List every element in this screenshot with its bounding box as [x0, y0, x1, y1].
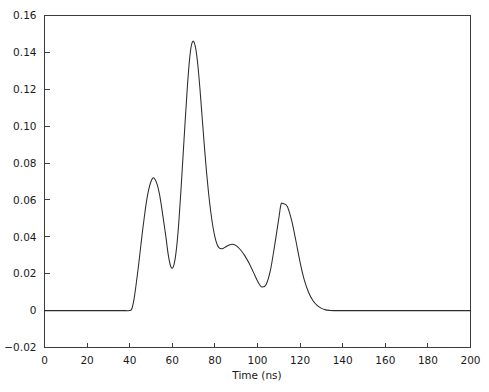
y-tick-label: 0.16	[13, 9, 37, 21]
y-tick-label: 0.02	[13, 267, 36, 279]
y-tick-label: 0	[30, 304, 37, 316]
y-tick-label: 0.04	[13, 231, 37, 243]
x-tick-label: 100	[247, 354, 267, 366]
x-tick-label: 140	[333, 354, 353, 366]
y-tick-label: 0.08	[13, 157, 36, 169]
y-tick-label: 0.06	[13, 194, 37, 206]
chart-figure: −0.0200.020.040.060.080.100.120.140.16 0…	[0, 0, 489, 392]
x-tick-label: 180	[418, 354, 438, 366]
x-tick-label: 200	[460, 354, 480, 366]
x-tick-label: 80	[208, 354, 221, 366]
y-tick-label: 0.14	[13, 46, 37, 58]
y-axis-ticks: −0.0200.020.040.060.080.100.120.140.16	[4, 9, 49, 353]
x-tick-label: 120	[290, 354, 310, 366]
y-tick-label: 0.12	[13, 83, 36, 95]
signal-curve	[45, 41, 471, 311]
x-tick-label: 60	[166, 354, 179, 366]
chart-svg: −0.0200.020.040.060.080.100.120.140.16 0…	[0, 0, 489, 392]
y-tick-label: −0.02	[4, 341, 36, 353]
x-tick-label: 20	[80, 354, 93, 366]
x-tick-label: 160	[375, 354, 395, 366]
axes-frame	[45, 16, 471, 348]
x-tick-label: 40	[123, 354, 136, 366]
x-axis-ticks: 020406080100120140160180200	[41, 343, 480, 366]
y-tick-label: 0.10	[13, 120, 36, 132]
x-axis-title: Time (ns)	[231, 369, 281, 381]
x-tick-label: 0	[41, 354, 48, 366]
plot-border	[45, 16, 471, 348]
